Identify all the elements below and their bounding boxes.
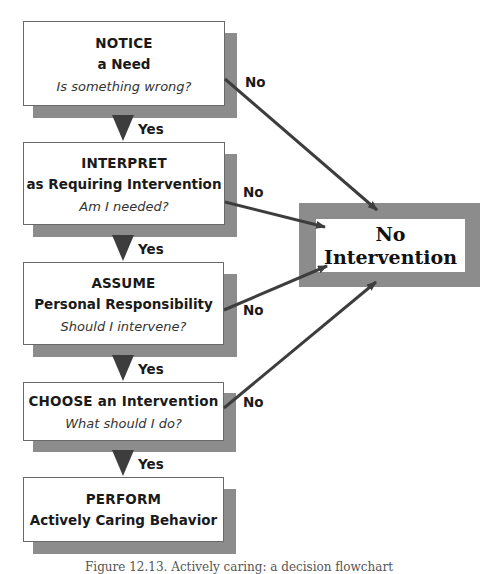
no-arrow-2 [225,202,325,227]
no-label-4: No [243,394,264,410]
no-label-1: No [245,74,266,90]
figure-caption: Figure 12.13. Actively caring: a decisio… [85,560,393,574]
no-label-2: No [243,184,264,200]
no-label-3: No [243,302,264,318]
no-arrow-3 [224,266,327,310]
